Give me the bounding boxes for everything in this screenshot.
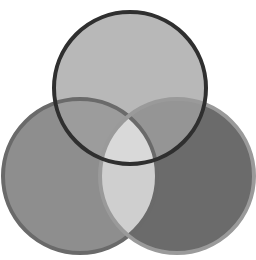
venn-diagram <box>0 0 256 260</box>
